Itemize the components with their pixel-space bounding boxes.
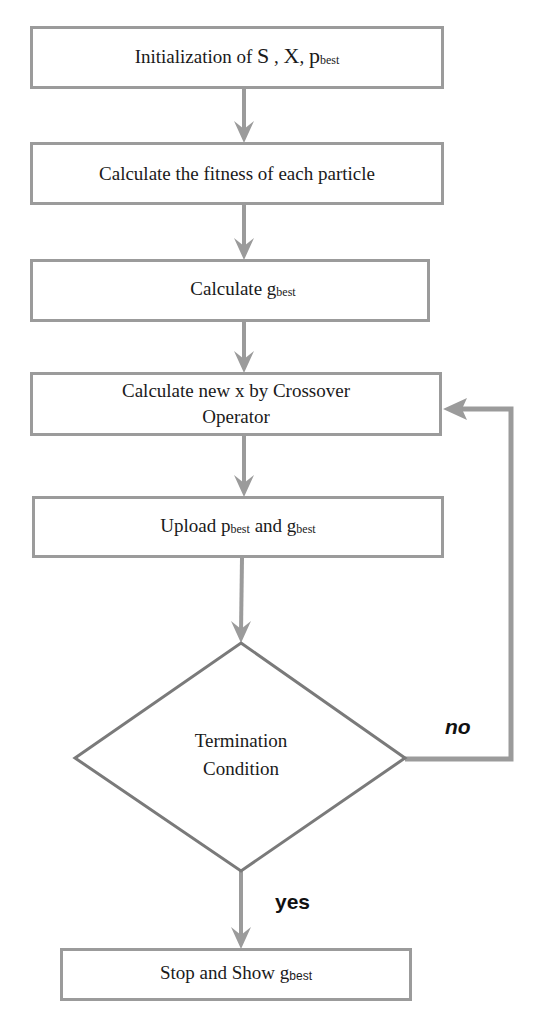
node-initialization: Initialization of S , X, pbest — [30, 26, 444, 89]
node-calculate-gbest-label: Calculate gbest — [190, 277, 295, 304]
node-upload-label: Upload pbest and gbest — [160, 514, 315, 541]
node-fitness-label: Calculate the fitness of each particle — [99, 162, 375, 186]
termination-line1: Termination — [141, 727, 341, 755]
edge-label-no: no — [445, 715, 471, 739]
node-upload: Upload pbest and gbest — [32, 496, 444, 558]
node-crossover-label-line1: Calculate new x by Crossover — [122, 378, 350, 404]
node-termination-label: Termination Condition — [141, 727, 341, 783]
arrow-upload-to-termination — [241, 558, 242, 632]
termination-line2: Condition — [141, 755, 341, 783]
edge-label-yes: yes — [275, 890, 310, 914]
node-stop: Stop and Show gbest — [60, 948, 412, 1001]
node-crossover-label-line2: Operator — [202, 404, 270, 430]
node-stop-label: Stop and Show gbest — [160, 961, 312, 988]
node-fitness: Calculate the fitness of each particle — [30, 142, 444, 205]
node-crossover: Calculate new x by Crossover Operator — [30, 372, 442, 436]
node-calculate-gbest: Calculate gbest — [30, 259, 430, 322]
node-initialization-label: Initialization of S , X, pbest — [135, 44, 340, 72]
arrow-no-feedback — [405, 409, 511, 759]
